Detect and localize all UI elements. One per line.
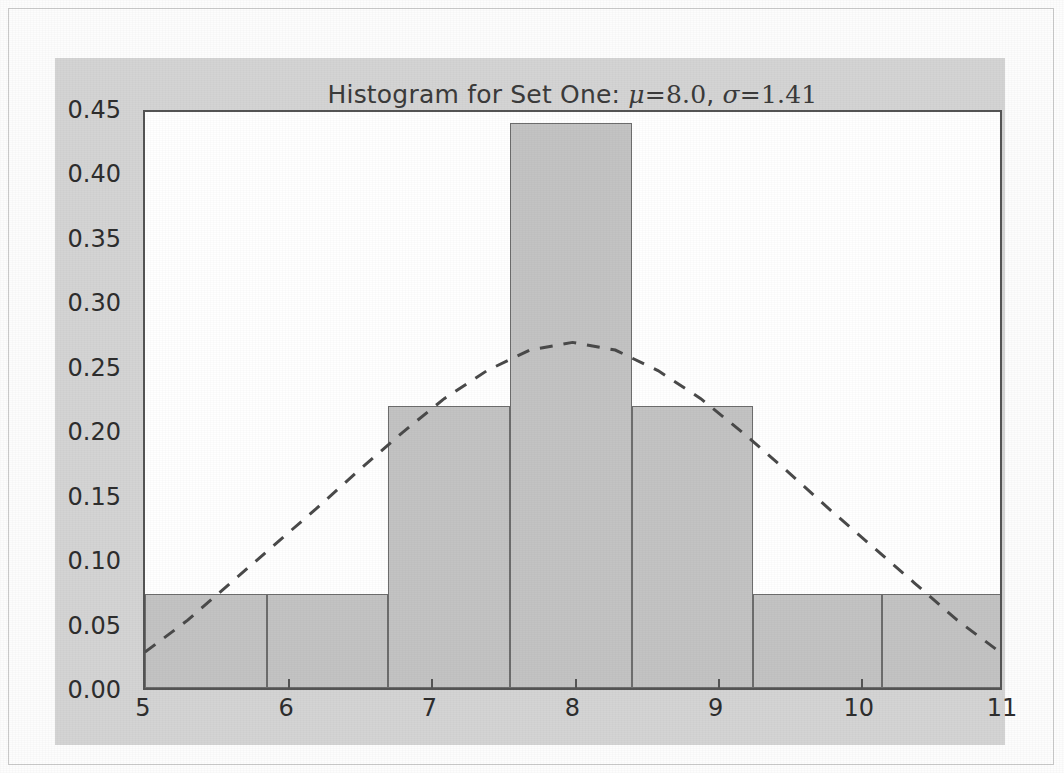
x-tick-label: 5: [135, 694, 150, 722]
histogram-bar: [882, 594, 1000, 688]
chart-title: Histogram for Set One: μ=8.0, σ=1.41: [143, 80, 1002, 109]
histogram-bar: [510, 123, 632, 688]
x-tick-label: 6: [279, 694, 294, 722]
chart-title-prefix: Histogram for Set One:: [328, 80, 629, 109]
x-tick-mark: [861, 679, 863, 688]
y-tick-label: 0.45: [68, 96, 121, 124]
y-tick-label: 0.10: [68, 547, 121, 575]
mu-value: 8.0: [666, 80, 706, 109]
sigma-equals-sign: =: [740, 80, 761, 109]
sigma-value: 1.41: [761, 80, 817, 109]
y-tick-label: 0.20: [68, 418, 121, 446]
x-tick-label: 7: [422, 694, 437, 722]
x-tick-label: 9: [708, 694, 723, 722]
x-tick-label: 10: [844, 694, 875, 722]
x-axis-tick-labels: 567891011: [143, 694, 1002, 734]
plot-axes: [143, 110, 1002, 690]
y-tick-label: 0.05: [68, 612, 121, 640]
y-tick-label: 0.35: [68, 225, 121, 253]
scanned-page: Histogram for Set One: μ=8.0, σ=1.41 0.0…: [0, 0, 1064, 773]
sigma-symbol: σ: [723, 80, 740, 109]
x-tick-mark: [718, 679, 720, 688]
y-axis-tick-labels: 0.000.050.100.150.200.250.300.350.400.45: [55, 110, 135, 690]
mu-equals-sign: =: [645, 80, 666, 109]
x-tick-label: 8: [565, 694, 580, 722]
x-tick-mark: [575, 679, 577, 688]
matplotlib-figure: Histogram for Set One: μ=8.0, σ=1.41 0.0…: [55, 58, 1005, 745]
y-tick-label: 0.00: [68, 676, 121, 704]
mu-symbol: μ: [628, 80, 644, 109]
y-tick-label: 0.25: [68, 354, 121, 382]
histogram-bar: [753, 594, 882, 688]
histogram-bar: [632, 406, 754, 688]
x-tick-mark: [431, 679, 433, 688]
y-tick-label: 0.15: [68, 483, 121, 511]
y-tick-label: 0.30: [68, 289, 121, 317]
histogram-bar: [267, 594, 389, 688]
plot-surface: [145, 112, 1000, 688]
title-separator: ,: [706, 80, 722, 109]
x-tick-label: 11: [987, 694, 1018, 722]
x-tick-mark: [288, 679, 290, 688]
y-tick-label: 0.40: [68, 160, 121, 188]
histogram-bar: [145, 594, 267, 688]
histogram-bar: [388, 406, 510, 688]
